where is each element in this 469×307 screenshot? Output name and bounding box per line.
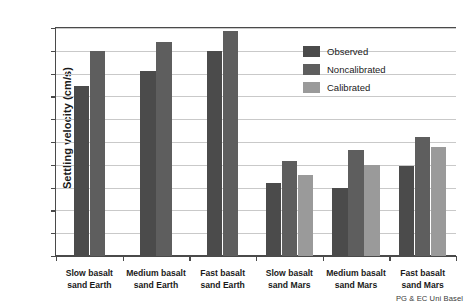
bar-group bbox=[74, 28, 106, 256]
settling-velocity-bar-chart: Settling velocity (cm/s) 024681012141618… bbox=[0, 0, 469, 307]
x-tick-label: Medium basaltsand Mars bbox=[319, 268, 393, 291]
x-tick-mark bbox=[323, 256, 324, 261]
x-tick-label: Slow basaltsand Earth bbox=[52, 268, 126, 291]
legend-label: Calibrated bbox=[327, 82, 370, 93]
bar-observed bbox=[207, 51, 223, 256]
bar-observed bbox=[266, 183, 282, 256]
x-tick-label: Slow basaltsand Mars bbox=[252, 268, 326, 291]
legend-swatch-icon bbox=[303, 64, 320, 75]
bar-group bbox=[140, 28, 172, 256]
bar-noncalibrated bbox=[223, 31, 239, 256]
legend-swatch-icon bbox=[303, 82, 320, 93]
legend-item: Calibrated bbox=[303, 80, 386, 95]
x-tick-mark bbox=[256, 256, 257, 261]
bar-noncalibrated bbox=[90, 51, 106, 256]
legend-item: Observed bbox=[303, 44, 386, 59]
bar-calibrated bbox=[298, 175, 314, 256]
x-tick-mark bbox=[456, 256, 457, 261]
x-tick-label: Fast basaltsand Mars bbox=[386, 268, 460, 291]
x-tick-mark bbox=[389, 256, 390, 261]
bar-observed bbox=[74, 86, 90, 256]
legend-swatch-icon bbox=[303, 46, 320, 57]
bar-group bbox=[399, 28, 447, 256]
bar-noncalibrated bbox=[348, 150, 364, 256]
x-tick-label: Fast basaltsand Earth bbox=[186, 268, 260, 291]
x-tick-mark bbox=[123, 256, 124, 261]
bar-observed bbox=[140, 71, 156, 256]
bars-layer bbox=[56, 28, 456, 256]
bar-observed bbox=[399, 166, 415, 256]
legend: ObservedNoncalibratedCalibrated bbox=[303, 44, 386, 98]
bar-calibrated bbox=[364, 165, 380, 256]
legend-label: Noncalibrated bbox=[327, 64, 386, 75]
x-tick-label: Medium basaltsand Earth bbox=[119, 268, 193, 291]
bar-observed bbox=[332, 188, 348, 256]
bar-noncalibrated bbox=[415, 137, 431, 256]
bar-noncalibrated bbox=[282, 161, 298, 256]
bar-noncalibrated bbox=[156, 42, 172, 256]
plot-area: 02468101214161820 Slow basaltsand EarthM… bbox=[55, 27, 456, 256]
legend-item: Noncalibrated bbox=[303, 62, 386, 77]
credit-text: PG & EC Uni Basel bbox=[396, 294, 463, 303]
bar-calibrated bbox=[431, 147, 447, 256]
legend-label: Observed bbox=[327, 46, 368, 57]
x-tick-mark bbox=[189, 256, 190, 261]
bar-group bbox=[207, 28, 239, 256]
x-tick-mark bbox=[56, 256, 57, 261]
